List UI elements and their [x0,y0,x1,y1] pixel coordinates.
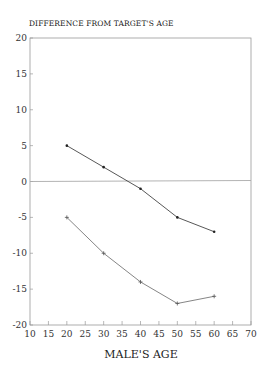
x-tick-label: 15 [43,329,55,339]
x-tick-label: 25 [80,329,92,339]
data-point-upper [139,187,142,190]
data-point-upper [102,166,105,169]
data-point-lower [212,294,216,298]
y-tick-label: 0 [21,177,27,187]
zero-reference-line [30,181,251,182]
y-tick-label: 15 [16,69,28,79]
y-tick-label: -15 [13,284,28,294]
line-chart: DIFFERENCE FROM TARGET'S AGE -20-15-10-5… [0,0,270,381]
y-tick-label: -10 [13,248,28,258]
chart-title: DIFFERENCE FROM TARGET'S AGE [29,19,174,28]
x-tick-label: 70 [245,329,257,339]
x-tick-label: 40 [135,329,147,339]
data-point-upper [66,144,69,147]
y-tick-label: 10 [16,105,28,115]
series-line-lower [67,217,214,303]
data-point-upper [213,230,216,233]
data-point-upper [176,216,179,219]
x-tick-label: 45 [153,329,165,339]
x-tick-label: 50 [172,329,184,339]
x-tick-label: 60 [208,329,220,339]
data-point-lower [175,301,179,305]
x-axis-label: MALE'S AGE [104,348,177,361]
x-tick-label: 30 [98,329,110,339]
x-tick-label: 65 [227,329,239,339]
y-tick-label: 5 [21,141,27,151]
x-axis: 10152025303540455055606570 [24,321,257,339]
y-tick-label: -5 [18,212,27,222]
series-group [65,144,216,305]
x-tick-label: 35 [116,329,128,339]
y-tick-label: 20 [16,33,28,43]
x-tick-label: 10 [24,329,36,339]
x-tick-label: 20 [61,329,73,339]
x-tick-label: 55 [190,329,202,339]
